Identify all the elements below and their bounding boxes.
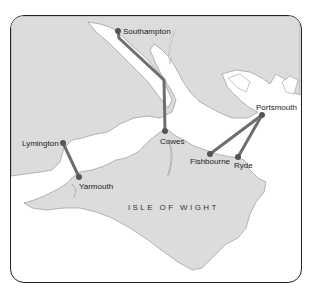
ferry-map: Southampton Cowes Portsmouth Fishbourne …	[0, 0, 310, 295]
label-yarmouth: Yarmouth	[79, 182, 113, 191]
port-lymington	[60, 140, 66, 146]
port-yarmouth	[76, 174, 82, 180]
port-ryde	[235, 154, 241, 160]
port-southampton	[115, 28, 121, 34]
label-ryde: Ryde	[234, 161, 253, 170]
island-title: ISLE OF WIGHT	[128, 203, 219, 212]
label-fishbourne: Fishbourne	[190, 157, 231, 166]
route-portsmouth-ryde	[238, 115, 262, 157]
label-southampton: Southampton	[123, 27, 171, 36]
route-portsmouth-fishbourne	[210, 115, 262, 154]
route-lymington-yarmouth	[63, 143, 79, 177]
port-cowes	[162, 128, 168, 134]
port-portsmouth	[259, 112, 265, 118]
label-cowes: Cowes	[160, 137, 184, 146]
label-lymington: Lymington	[22, 139, 59, 148]
label-portsmouth: Portsmouth	[256, 103, 297, 112]
